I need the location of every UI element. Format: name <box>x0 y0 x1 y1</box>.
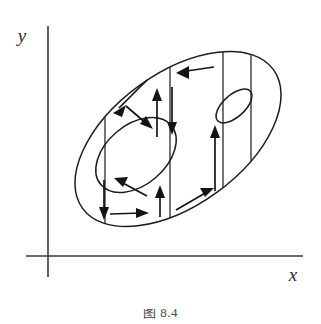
arrow-short-up-mid <box>155 185 165 217</box>
arrow-bottom-right <box>110 208 149 218</box>
outer-ellipse-boundary <box>44 16 313 262</box>
arrow-right-vert-up <box>210 125 220 191</box>
outer-region-group <box>44 16 313 262</box>
flow-arrows-group <box>99 66 220 220</box>
y-axis-label: y <box>16 25 27 46</box>
arrow-upper-left-down <box>113 80 147 117</box>
figure-caption-text: 图 8.4 <box>143 309 178 319</box>
figure-caption: 图 8.4 <box>0 309 321 324</box>
arrow-vert-down-inner <box>167 87 177 135</box>
arrow-left-down <box>99 180 109 220</box>
arrow-top-edge-left <box>176 66 214 79</box>
large-hole-boundary <box>81 102 190 207</box>
chord-lines-group <box>105 20 251 260</box>
axes-group: y x <box>16 25 303 285</box>
figure-container: y x <box>0 0 321 324</box>
x-axis-label: x <box>288 264 298 285</box>
arrow-vert-up-inner <box>152 88 162 137</box>
figure-svg: y x <box>0 0 321 324</box>
